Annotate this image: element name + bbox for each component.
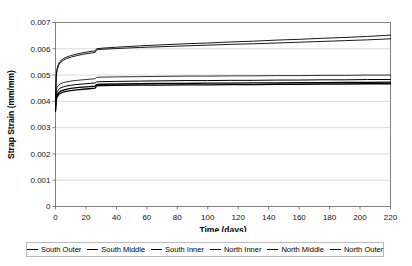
legend-item[interactable]: North Inner [207, 245, 265, 255]
legend-item[interactable]: North Outer [327, 245, 386, 255]
plot-area-wrapper: 00.0010.0020.0030.0040.0050.0060.007 020… [0, 10, 412, 232]
clipped-text-remnant [0, 0, 412, 9]
x-tick-label: 60 [142, 213, 151, 222]
y-tick-labels: 00.0010.0020.0030.0040.0050.0060.007 [30, 18, 51, 211]
y-tick-label: 0.007 [30, 18, 51, 27]
data-series-line [56, 82, 391, 110]
legend-item-label: North Inner [224, 245, 262, 255]
legend-line-swatch [27, 249, 38, 250]
legend-item[interactable]: South Outer [24, 245, 84, 255]
x-tick-labels: 020406080100120140160180200220 [53, 213, 397, 222]
y-tick-label: 0.004 [30, 97, 51, 106]
data-series-group [56, 35, 391, 111]
data-series-line [56, 35, 391, 101]
legend-item-label: South Middle [101, 245, 145, 255]
x-tick-label: 80 [173, 213, 182, 222]
legend-line-swatch [330, 249, 341, 250]
gridlines-group [56, 23, 391, 207]
x-tick-label: 120 [232, 213, 246, 222]
x-tick-label: 40 [112, 213, 121, 222]
y-tick-label: 0.005 [30, 71, 51, 80]
x-tick-label: 200 [353, 213, 367, 222]
x-tick-label: 0 [53, 213, 58, 222]
y-tick-label: 0.006 [30, 45, 51, 54]
y-tick-label: 0.003 [30, 123, 51, 132]
legend-item-label: North Outer [344, 245, 383, 255]
chart-legend: South Outer South Middle South Inner Nor… [26, 242, 384, 257]
chart-figure: 00.0010.0020.0030.0040.0050.0060.007 020… [0, 0, 412, 266]
y-axis-title: Strap Strain (mm/mm) [6, 70, 16, 159]
legend-line-swatch [87, 249, 98, 250]
y-tick-label: 0 [46, 202, 51, 211]
legend-line-swatch [151, 249, 162, 250]
x-tick-label: 100 [201, 213, 215, 222]
x-tick-label: 180 [323, 213, 337, 222]
legend-item[interactable]: North Middle [264, 245, 327, 255]
x-tick-label: 140 [262, 213, 276, 222]
legend-item-label: South Inner [165, 245, 204, 255]
x-tick-label: 160 [292, 213, 306, 222]
plot-border [56, 23, 391, 207]
data-series-line [56, 84, 391, 112]
plot-frame [56, 23, 391, 207]
y-tick-label: 0.001 [30, 176, 51, 185]
x-axis-title: Time (days) [199, 225, 246, 233]
x-tick-label: 220 [384, 213, 398, 222]
y-tick-label: 0.002 [30, 150, 51, 159]
legend-line-swatch [267, 249, 278, 250]
legend-item-label: North Middle [281, 245, 324, 255]
legend-item[interactable]: South Middle [84, 245, 148, 255]
legend-item[interactable]: South Inner [148, 245, 207, 255]
legend-item-label: South Outer [41, 245, 81, 255]
line-chart: 00.0010.0020.0030.0040.0050.0060.007 020… [0, 10, 412, 232]
legend-line-swatch [210, 249, 221, 250]
x-tick-label: 20 [82, 213, 91, 222]
